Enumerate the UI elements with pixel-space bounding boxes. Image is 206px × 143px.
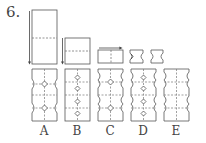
option-c-label[interactable]: C [97,124,123,138]
option-d-label[interactable]: D [130,124,156,138]
fold-step-2 [63,38,91,64]
folding-diagram [0,0,206,143]
option-b-label[interactable]: B [64,124,90,138]
option-b-figure[interactable] [65,69,90,121]
fold-step-1 [30,10,58,64]
fold-step-5 [151,50,163,63]
option-e-figure[interactable] [164,69,189,121]
option-a-label[interactable]: A [31,124,57,138]
option-d-figure[interactable] [131,69,156,121]
option-c-figure[interactable] [98,69,123,121]
fold-step-3 [98,48,123,63]
fold-step-4 [130,50,143,63]
option-a-figure[interactable] [32,69,57,121]
option-e-label[interactable]: E [163,124,189,138]
